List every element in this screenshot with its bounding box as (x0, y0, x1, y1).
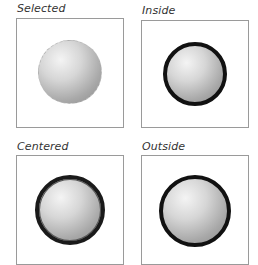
sphere-stroke-inside[interactable] (163, 42, 227, 106)
sphere-stroke-outside[interactable] (159, 175, 231, 247)
panel-label: Outside (142, 140, 185, 153)
panel-label: Selected (17, 2, 66, 15)
panel-label: Centered (17, 140, 69, 153)
sphere-stroke-centered[interactable] (35, 175, 105, 245)
sphere-selected[interactable] (38, 40, 102, 104)
panel-label: Inside (142, 4, 175, 17)
